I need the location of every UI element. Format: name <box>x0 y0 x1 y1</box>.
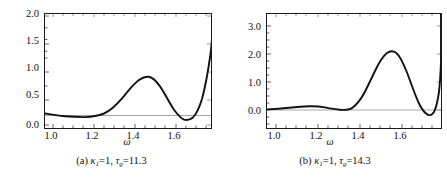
caption-b-tau-value: =14.3 <box>346 155 370 166</box>
x-tick-label-a-1: 1.2 <box>77 131 107 141</box>
caption-b: (b) κ1=1, τg=14.3 <box>223 155 447 166</box>
y-tick-label-a-1: 0.5 <box>11 90 39 100</box>
caption-a-tau-value: =11.3 <box>123 155 147 166</box>
caption-a-kappa-symbol: κ <box>91 155 96 166</box>
caption-b-kappa-subscript: 1 <box>319 160 323 168</box>
bottom-axis-ticks-b <box>276 124 432 128</box>
curve-b <box>267 14 441 115</box>
x-tick-label-a-3: 1.6 <box>159 131 189 141</box>
plot-area-a <box>44 13 212 129</box>
caption-b-tau-subscript: g <box>343 160 347 168</box>
top-axis-ticks-b <box>276 14 432 17</box>
bottom-axis-ticks-a <box>53 124 206 128</box>
x-axis-label-a: ω <box>112 136 142 147</box>
caption-b-separator: , <box>334 155 337 166</box>
caption-a-prefix: (a) <box>76 155 88 166</box>
x-tick-label-b-3: 1.6 <box>385 131 415 141</box>
y-tick-label-b-1: 1.0 <box>233 78 261 88</box>
plot-svg-a <box>45 14 211 128</box>
caption-a: (a) κ1=1, τg=11.3 <box>0 155 223 166</box>
y-tick-label-b-2: 2.0 <box>233 50 261 60</box>
y-tick-label-a-2: 1.0 <box>11 63 39 73</box>
curve-a <box>45 14 211 120</box>
caption-b-kappa-value: =1 <box>323 155 334 166</box>
panel-b: 3.0 2.0 1.0 0.0 <box>223 0 447 181</box>
y-tick-label-a-0: 0.0 <box>11 120 39 130</box>
x-tick-label-b-0: 1.0 <box>259 131 289 141</box>
caption-a-tau-subscript: g <box>119 160 123 168</box>
x-axis-label-b: ω <box>315 136 345 147</box>
caption-a-kappa-value: =1 <box>99 155 110 166</box>
top-axis-ticks-a <box>53 14 206 17</box>
y-tick-label-b-3: 3.0 <box>233 22 261 32</box>
y-tick-label-a-4: 2.0 <box>11 9 39 19</box>
x-tick-label-b-2: 1.4 <box>343 131 373 141</box>
left-axis-ticks-a <box>45 16 49 125</box>
figure-container: F(ω) 2.0 1.5 1.0 0.5 0.0 <box>0 0 447 181</box>
plot-area-b <box>266 13 442 129</box>
caption-b-prefix: (b) <box>299 155 311 166</box>
y-tick-label-b-0: 0.0 <box>233 106 261 116</box>
y-tick-label-a-3: 1.5 <box>11 36 39 46</box>
plot-svg-b <box>267 14 441 128</box>
caption-a-kappa-subscript: 1 <box>96 160 100 168</box>
caption-a-separator: , <box>110 155 113 166</box>
panel-a: F(ω) 2.0 1.5 1.0 0.5 0.0 <box>0 0 223 181</box>
x-tick-label-a-0: 1.0 <box>36 131 66 141</box>
